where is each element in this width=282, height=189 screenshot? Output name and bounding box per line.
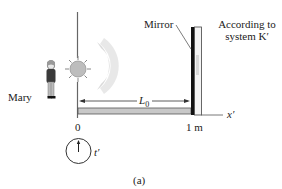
origin-tick-label: 0 — [75, 121, 81, 133]
light-source-icon — [65, 56, 91, 82]
mirror-pointer — [176, 25, 191, 49]
mirror-icon — [191, 27, 202, 115]
clock-label: t′ — [94, 146, 99, 158]
distance-label: L0 — [139, 94, 149, 111]
frame-label: According to system K′ — [212, 18, 282, 42]
observer-label: Mary — [8, 91, 32, 103]
frame-label-line1: According to — [212, 18, 282, 30]
mirror-label: Mirror — [144, 18, 173, 30]
distance-subscript: 0 — [145, 100, 149, 109]
axis-label: x′ — [227, 108, 234, 120]
figure-caption: (a) — [133, 174, 145, 186]
distance-arrow — [79, 99, 190, 103]
clock-icon — [66, 139, 91, 164]
end-tick-label: 1 m — [186, 121, 203, 133]
person-icon — [47, 60, 56, 99]
rod — [78, 108, 191, 114]
wavefront-icon — [97, 38, 119, 94]
frame-label-line2: system K′ — [212, 30, 282, 42]
